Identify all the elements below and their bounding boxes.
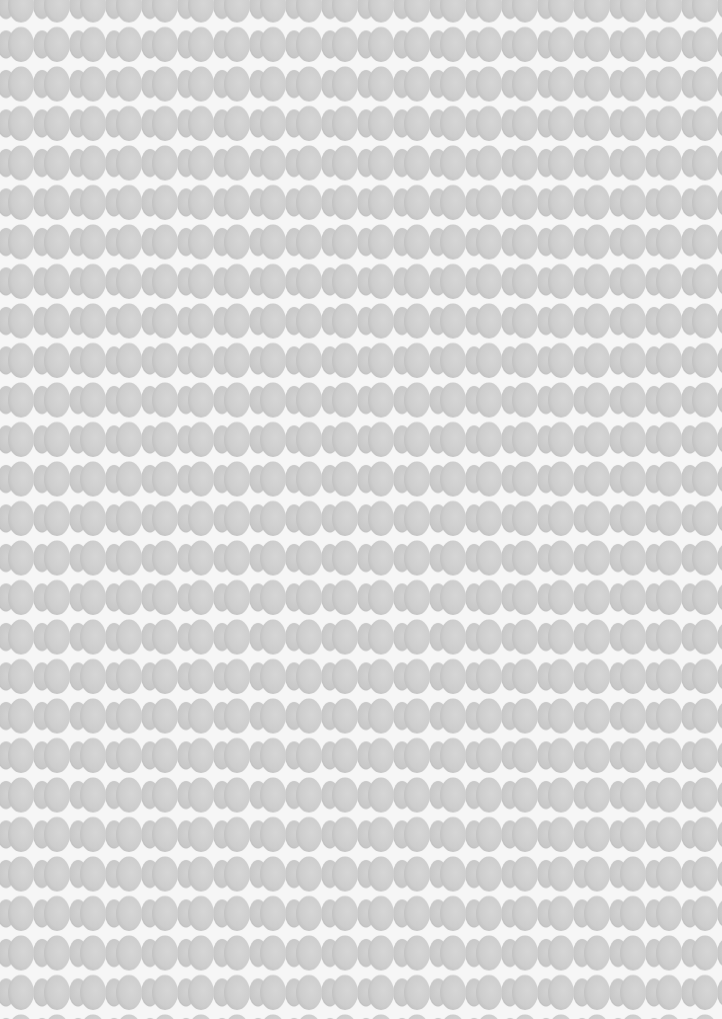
oval-texture-pattern — [0, 0, 722, 1019]
pattern-fill — [0, 0, 722, 1019]
